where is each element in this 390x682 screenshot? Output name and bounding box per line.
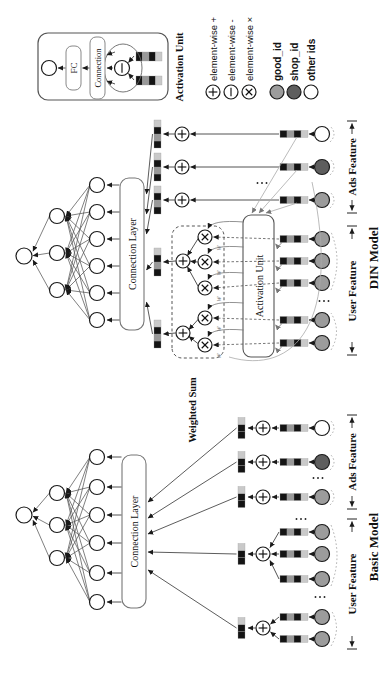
din-user-feature-label: User Feature: [346, 260, 358, 321]
din-connection-layer-label: Connection Layer: [127, 217, 138, 290]
inset-connection-label: Connection: [93, 48, 103, 88]
weight-w-label: w: [214, 353, 223, 358]
legend-other-ids-label: other ids: [306, 38, 317, 81]
legend-element-wise-minus-label: element-wise -: [226, 19, 237, 81]
weight-w-label: w: [214, 326, 223, 331]
weighted-sum-label: Weighted Sum: [187, 377, 198, 443]
din-ads-feature-label: Ads Feature: [346, 138, 358, 196]
legend-good-id-label: good_id: [272, 42, 283, 81]
basic-model-label: Basic Model: [366, 512, 381, 581]
weight-w-label: w: [214, 245, 223, 250]
legend-element-wise-plus-label: element-wise +: [208, 16, 219, 81]
basic-ads-feature-label: Ads Feature: [346, 433, 358, 491]
legend-element-wise-multiply-label: element-wise ×: [244, 17, 255, 81]
din-architecture-figure: Connection Layer User Feature Ads Featur…: [0, 0, 390, 682]
din-figure-page: Connection Layer User Feature Ads Featur…: [0, 0, 390, 682]
basic-connection-layer-label: Connection Layer: [129, 495, 140, 568]
basic-user-feature-label: User Feature: [346, 553, 358, 614]
activation-unit-inset: Connection FC Activation Unit: [38, 32, 185, 102]
legend-shop-id-label: shop_id: [289, 43, 300, 81]
weight-w-label: w: [214, 296, 223, 301]
din-activation-unit-label: Activation Unit: [254, 255, 265, 318]
inset-title: Activation Unit: [174, 32, 185, 102]
din-model-label: DIN Model: [366, 226, 381, 289]
weight-w-label: w: [214, 270, 223, 275]
inset-fc-label: FC: [69, 62, 79, 73]
